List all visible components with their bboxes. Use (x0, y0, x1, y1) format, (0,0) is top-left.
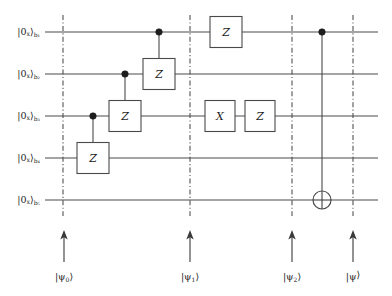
quantum-circuit-figure: |0x⟩b₁ |0x⟩b₂ |0x⟩b₃ |0x⟩b₄ |0x⟩b₅ (0, 0, 392, 296)
cz-b3-b4-control-dot[interactable] (90, 113, 97, 120)
gate-z-b1[interactable]: Z (210, 17, 242, 48)
qubit-label-b3: |0x⟩b₃ (17, 110, 40, 122)
marker-psi0: |ψ0⟩ (55, 230, 73, 283)
cz-b3-b4-label: Z (88, 152, 97, 165)
cz-b2-b3-control-dot[interactable] (122, 71, 129, 78)
qubit-label-b1: |0x⟩b₁ (17, 26, 40, 38)
marker-psi1: |ψ1⟩ (181, 230, 199, 283)
gate-cz-b1-b2[interactable]: Z (143, 29, 175, 90)
state-markers: |ψ0⟩ |ψ1⟩ |ψ2⟩ |ψ (55, 230, 360, 283)
cnot-b1-b5-control-dot[interactable] (319, 29, 326, 36)
cz-b1-b2-label: Z (154, 68, 163, 81)
x-b3-label: X (215, 110, 225, 123)
marker-psi0-label: |ψ0⟩ (55, 271, 73, 283)
marker-psi1-label: |ψ1⟩ (181, 271, 199, 283)
z-b3-label: Z (255, 110, 264, 123)
marker-psi: |ψ⟩ (346, 230, 360, 283)
z-b1-label: Z (221, 26, 230, 39)
gate-cz-b2-b3[interactable]: Z (109, 71, 141, 132)
circuit-canvas: |0x⟩b₁ |0x⟩b₂ |0x⟩b₃ |0x⟩b₄ |0x⟩b₅ (0, 0, 392, 296)
qubit-label-b4: |0x⟩b₄ (17, 152, 40, 164)
marker-psi-label: |ψ⟩ (346, 268, 360, 283)
cz-b1-b2-control-dot[interactable] (156, 29, 163, 36)
marker-psi2: |ψ2⟩ (283, 230, 301, 283)
qubit-labels: |0x⟩b₁ |0x⟩b₂ |0x⟩b₃ |0x⟩b₄ |0x⟩b₅ (17, 26, 40, 206)
qubit-label-b5: |0x⟩b₅ (17, 194, 40, 206)
gate-x-b3[interactable]: X (205, 101, 235, 132)
gate-cz-b3-b4[interactable]: Z (77, 113, 109, 174)
gate-cnot-b1-b5[interactable] (313, 29, 331, 209)
qubit-label-b2: |0x⟩b₂ (17, 68, 40, 80)
gate-z-b3[interactable]: Z (245, 101, 275, 132)
marker-psi2-label: |ψ2⟩ (283, 271, 301, 283)
cz-b2-b3-label: Z (120, 110, 129, 123)
